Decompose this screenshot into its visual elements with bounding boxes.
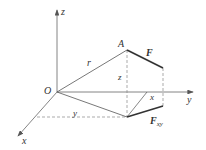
- z-axis-label: z: [60, 6, 65, 17]
- r-vector: [57, 50, 127, 92]
- force-xy-vector: [127, 106, 163, 117]
- y-axis-label: y: [186, 94, 192, 105]
- force-vector-diagram: z y x O A F r z x y Fxy: [0, 0, 206, 150]
- origin-label: O: [44, 85, 51, 96]
- force-label: F: [145, 47, 153, 58]
- x-axis: [18, 92, 57, 136]
- r-label: r: [87, 57, 91, 68]
- r-projection: [57, 92, 127, 117]
- z-height-label: z: [117, 72, 122, 82]
- point-a-label: A: [117, 38, 125, 49]
- force-vector: [127, 50, 163, 68]
- force-xy-label: Fxy: [149, 115, 164, 128]
- diagram-canvas: z y x O A F r z x y Fxy: [0, 0, 206, 150]
- x-comp-label: x: [149, 92, 154, 102]
- y-comp-label: y: [72, 108, 77, 118]
- x-axis-label: x: [21, 135, 27, 146]
